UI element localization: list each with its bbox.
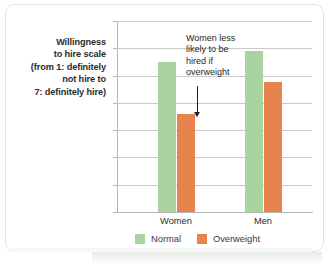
- legend-swatch-normal: [135, 234, 145, 244]
- legend-swatch-overweight: [197, 234, 207, 244]
- annotation-arrow-head-icon: [194, 112, 200, 117]
- y-axis-caption: Willingness to hire scale (from 1: defin…: [8, 36, 106, 98]
- bar-women-overweight: [177, 114, 195, 212]
- y-axis-caption-line-2: to hire scale: [8, 48, 106, 60]
- y-axis-caption-line-4: not hire to: [8, 73, 106, 85]
- bar-women-normal: [158, 62, 176, 212]
- card-shadow: [92, 252, 322, 264]
- x-axis-label-men: Men: [228, 216, 298, 226]
- legend-label: Normal: [151, 234, 181, 244]
- annotation-arrow-line: [197, 86, 198, 114]
- chart-annotation: Women less likely to be hired if overwei…: [186, 33, 248, 78]
- x-axis-line: [117, 212, 313, 213]
- legend-label: Overweight: [213, 234, 260, 244]
- y-tick-mark: [113, 212, 117, 213]
- y-axis-caption-line-5: 7: definitely hire): [8, 86, 106, 98]
- y-axis-caption-line-1: Willingness: [8, 36, 106, 48]
- x-axis-label-women: Women: [141, 216, 211, 226]
- y-axis-caption-line-3: (from 1: definitely: [8, 61, 106, 73]
- bar-men-overweight: [264, 82, 282, 212]
- legend-item-overweight[interactable]: Overweight: [197, 234, 260, 244]
- chart-legend: NormalOverweight: [135, 234, 260, 244]
- legend-item-normal[interactable]: Normal: [135, 234, 181, 244]
